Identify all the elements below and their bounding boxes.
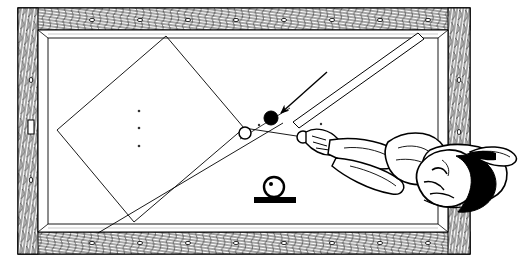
rail-top (18, 8, 470, 30)
stud-top-4 (233, 18, 238, 21)
stud-top-3 (185, 18, 190, 21)
stud-right-2 (457, 129, 460, 134)
stud-top-8 (425, 18, 430, 21)
object-ball-white (239, 127, 251, 139)
stud-bottom-1 (89, 241, 94, 244)
stud-top-7 (377, 18, 382, 21)
stud-right-1 (457, 77, 460, 82)
stud-left-2 (29, 177, 32, 182)
stud-top-5 (281, 18, 286, 21)
stud-top-6 (329, 18, 334, 21)
stud-bottom-7 (377, 241, 382, 244)
marker-inner-dot (269, 182, 273, 186)
stud-bottom-4 (233, 241, 238, 244)
marker-base (254, 197, 296, 203)
marker-circle (264, 177, 284, 197)
object-ball-black (264, 111, 278, 125)
stud-bottom-6 (329, 241, 334, 244)
illustration-canvas: Billiard Table Aiming Diagram Black and … (0, 0, 530, 262)
stud-left-1 (29, 77, 32, 82)
stud-bottom-8 (425, 241, 430, 244)
rail-bottom (18, 232, 470, 254)
left-rail-plate (28, 120, 34, 134)
stud-bottom-3 (185, 241, 190, 244)
stud-bottom-5 (281, 241, 286, 244)
stud-top-2 (137, 18, 142, 21)
billiard-illustration (0, 0, 530, 262)
stud-bottom-2 (137, 241, 142, 244)
stud-top-1 (89, 18, 94, 21)
